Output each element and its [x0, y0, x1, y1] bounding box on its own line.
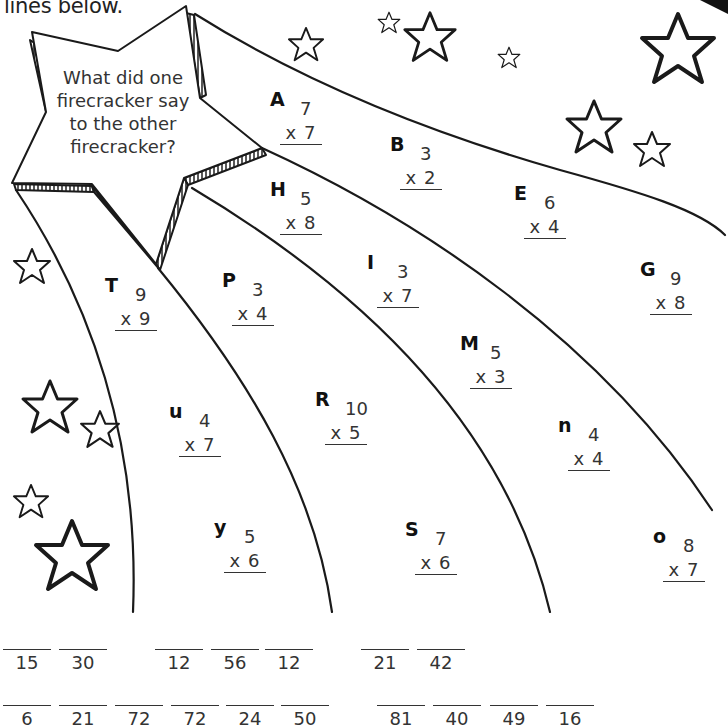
star-decoration — [567, 101, 621, 152]
star-decoration — [405, 13, 455, 61]
problem-letter: P — [222, 269, 236, 291]
problem-letter: B — [390, 133, 404, 155]
star-decoration — [634, 132, 670, 166]
problem-multiplier: x 6 — [415, 552, 457, 575]
answer-blank[interactable]: 40 — [433, 705, 481, 725]
math-problem-T: T9x 9 — [105, 274, 165, 344]
math-problem-I: I3x 7 — [367, 251, 427, 321]
problem-multiplicand: 7 — [300, 98, 311, 119]
problem-multiplicand: 4 — [199, 410, 210, 431]
star-decoration — [642, 14, 714, 82]
answer-blank[interactable]: 81 — [377, 705, 425, 725]
problem-multiplier: x 7 — [377, 285, 419, 308]
answer-blank[interactable]: 12 — [265, 649, 313, 673]
problem-letter: A — [270, 88, 285, 110]
problem-multiplicand: 3 — [420, 143, 431, 164]
math-problem-G: G9x 8 — [640, 258, 700, 328]
math-problem-u: u4x 7 — [169, 400, 229, 470]
star-decoration — [498, 47, 520, 67]
problem-letter: T — [105, 274, 118, 296]
problem-letter: o — [653, 525, 666, 547]
answer-blank[interactable]: 16 — [546, 705, 594, 725]
problem-multiplier: x 8 — [650, 292, 692, 315]
problem-multiplicand: 6 — [544, 192, 555, 213]
math-problem-B: B3x 2 — [390, 133, 450, 203]
problem-multiplicand: 5 — [244, 526, 255, 547]
problem-multiplicand: 5 — [490, 342, 501, 363]
problem-multiplicand: 10 — [345, 398, 368, 419]
star-decoration — [378, 12, 400, 32]
answer-blank[interactable]: 50 — [281, 705, 329, 725]
answer-blank[interactable]: 12 — [155, 649, 203, 673]
star-decoration — [14, 485, 48, 517]
math-problem-H: H5x 8 — [270, 178, 330, 248]
answer-blank[interactable]: 56 — [211, 649, 259, 673]
problem-letter: u — [169, 400, 183, 422]
star-decoration — [81, 411, 119, 447]
answer-blank[interactable]: 49 — [490, 705, 538, 725]
problem-multiplicand: 7 — [435, 528, 446, 549]
answer-blank[interactable]: 21 — [59, 705, 107, 725]
problem-letter: I — [367, 251, 374, 273]
star-decoration — [14, 249, 50, 283]
instruction-text: lines below. — [4, 0, 123, 18]
math-problem-E: E6x 4 — [514, 182, 574, 252]
problem-letter: E — [514, 182, 527, 204]
math-problem-n: n4x 4 — [558, 414, 618, 484]
problem-multiplier: x 4 — [524, 216, 566, 239]
answer-blank[interactable]: 15 — [3, 649, 51, 673]
math-problem-R: R10x 5 — [315, 388, 375, 458]
problem-multiplier: x 5 — [325, 422, 367, 445]
problem-multiplicand: 9 — [670, 268, 681, 289]
answer-blank[interactable]: 6 — [3, 705, 51, 725]
problem-letter: H — [270, 178, 286, 200]
answer-blank[interactable]: 42 — [417, 649, 465, 673]
problem-multiplicand: 5 — [300, 188, 311, 209]
problem-multiplicand: 9 — [135, 284, 146, 305]
math-problem-y: y5x 6 — [214, 516, 274, 586]
star-decoration — [289, 28, 323, 60]
problem-multiplicand: 8 — [683, 535, 694, 556]
problem-multiplicand: 3 — [397, 261, 408, 282]
math-problem-o: o8x 7 — [653, 525, 713, 595]
problem-multiplier: x 6 — [224, 550, 266, 573]
math-problem-S: S7x 6 — [405, 518, 465, 588]
answer-blank[interactable]: 30 — [59, 649, 107, 673]
star-decoration — [36, 521, 108, 589]
math-problem-M: M5x 3 — [460, 332, 520, 402]
math-problem-A: A7x 7 — [270, 88, 330, 158]
problem-multiplier: x 4 — [568, 448, 610, 471]
riddle-question: What did one firecracker say to the othe… — [48, 66, 198, 158]
answer-blank[interactable]: 72 — [115, 705, 163, 725]
problem-multiplier: x 4 — [232, 303, 274, 326]
problem-multiplicand: 4 — [588, 424, 599, 445]
problem-letter: G — [640, 258, 656, 280]
math-problem-P: P3x 4 — [222, 269, 282, 339]
problem-letter: M — [460, 332, 479, 354]
problem-multiplier: x 2 — [400, 167, 442, 190]
problem-multiplier: x 8 — [280, 212, 322, 235]
problem-letter: S — [405, 518, 419, 540]
answer-blank[interactable]: 24 — [226, 705, 274, 725]
problem-multiplier: x 9 — [115, 308, 157, 331]
star-decoration — [23, 381, 77, 432]
problem-multiplicand: 3 — [252, 279, 263, 300]
problem-multiplier: x 3 — [470, 366, 512, 389]
corner-shape — [700, 0, 728, 14]
answer-blank[interactable]: 21 — [361, 649, 409, 673]
problem-multiplier: x 7 — [179, 434, 221, 457]
problem-letter: R — [315, 388, 330, 410]
problem-multiplier: x 7 — [663, 559, 705, 582]
answer-blank[interactable]: 72 — [171, 705, 219, 725]
problem-multiplier: x 7 — [280, 122, 322, 145]
problem-letter: n — [558, 414, 572, 436]
problem-letter: y — [214, 516, 226, 538]
